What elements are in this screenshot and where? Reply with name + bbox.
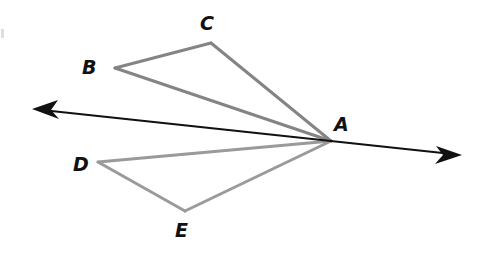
segment-DE <box>98 162 185 211</box>
point-label-E: E <box>175 221 188 240</box>
point-label-A: A <box>334 115 349 134</box>
point-label-C: C <box>200 14 214 33</box>
point-label-D: D <box>73 155 89 174</box>
segment-CA <box>211 43 331 141</box>
geometry-diagram: A B C D E <box>0 0 488 254</box>
segment-BC <box>115 43 211 68</box>
arrowhead-right-icon <box>435 146 462 164</box>
arrowhead-left-icon <box>32 100 59 119</box>
diagram-canvas <box>0 0 488 254</box>
point-label-B: B <box>82 58 96 77</box>
